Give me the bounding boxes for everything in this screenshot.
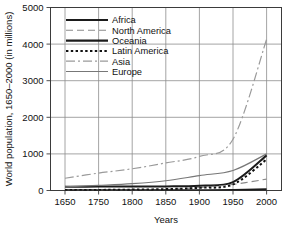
legend-label-asia: Asia: [112, 57, 131, 67]
legend-label-north-america: North America: [112, 26, 172, 36]
chart-container: 010002000300040005000 165017501800185019…: [0, 0, 294, 229]
y-tick-label-2000: 2000: [22, 112, 43, 123]
x-tick-label-1800: 1800: [122, 196, 143, 207]
x-tick-label-1850: 1850: [155, 196, 176, 207]
y-tick-label-1000: 1000: [22, 148, 43, 159]
y-tick-label-4000: 4000: [22, 39, 43, 50]
legend-label-latin-america: Latin America: [112, 46, 169, 56]
population-line-chart: 010002000300040005000 165017501800185019…: [0, 0, 294, 229]
x-axis-title: Years: [154, 214, 178, 225]
y-tick-label-5000: 5000: [22, 2, 43, 13]
x-tick-label-1650: 1650: [54, 196, 75, 207]
legend-label-europe: Europe: [112, 67, 142, 77]
x-tick-label-1750: 1750: [88, 196, 109, 207]
y-tick-label-0: 0: [38, 185, 43, 196]
legend-label-africa: Africa: [112, 15, 137, 25]
x-tick-label-1950: 1950: [222, 196, 243, 207]
y-axis-title: World population, 1650–2000 (in millions…: [3, 12, 14, 187]
y-tick-label-3000: 3000: [22, 75, 43, 86]
x-tick-label-1900: 1900: [189, 196, 210, 207]
x-tick-label-2000: 2000: [256, 196, 277, 207]
legend-label-oceania: Oceania: [112, 36, 147, 46]
